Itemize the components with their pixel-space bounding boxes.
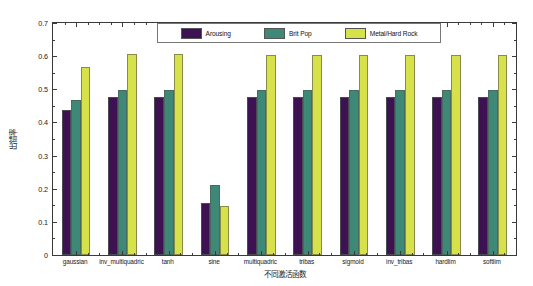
x-axis-minor-tick [366,253,367,255]
x-axis-minor-tick [470,23,471,25]
legend-swatch [181,28,202,39]
y-axis-minor-tick [53,172,55,173]
x-axis-minor-tick [157,253,158,255]
x-axis-minor-tick [250,253,251,255]
y-axis-minor-tick [514,205,516,206]
bar [395,90,405,255]
bar [386,97,396,255]
x-axis-minor-tick [377,253,378,255]
y-axis-minor-tick [53,139,55,140]
legend-entry: Arousing [181,28,231,39]
y-axis-minor-tick [514,172,516,173]
plot-area [52,22,517,256]
x-axis-minor-tick [76,23,77,25]
legend-swatch [264,28,285,39]
y-axis-tick-label: 0.3 [38,151,48,160]
y-axis-tick-label: 0.4 [38,118,48,127]
x-axis-minor-tick [400,253,401,255]
x-axis-minor-tick [111,253,112,255]
y-axis-minor-tick [53,40,55,41]
y-axis-tick-label: 0 [44,251,48,260]
legend-label: Arousing [206,30,231,37]
y-axis-tick-label: 0.5 [38,85,48,94]
x-axis-minor-tick [285,253,286,255]
y-axis-tick-mark [512,23,516,24]
x-axis-minor-tick [319,253,320,255]
y-axis-tick-mark [512,189,516,190]
bar [81,67,91,255]
bar [247,97,257,255]
x-axis-minor-tick [458,23,459,25]
chart-legend: ArousingBrit PopMetal/Hard Rock [157,23,441,43]
x-axis-tick-label: sine [208,258,219,265]
y-axis-title: 出错率 [7,109,18,169]
x-axis-minor-tick [273,253,274,255]
legend-swatch [345,28,366,39]
y-axis-tick-label: 0.1 [38,217,48,226]
bar [164,90,174,255]
legend-label: Metal/Hard Rock [370,30,418,37]
y-axis-tick-labels: 00.10.20.30.40.50.60.7 [18,22,48,256]
y-axis-tick-mark [53,156,57,157]
bar [71,100,81,255]
x-axis-minor-tick [435,253,436,255]
x-axis-tick-label: tanh [162,258,174,265]
x-axis-minor-tick [261,253,262,255]
x-axis-tick-label: gaussian [63,258,88,265]
bar [442,90,452,255]
bar [220,206,230,255]
x-axis-minor-tick [122,253,123,255]
bar [432,97,442,255]
y-axis-minor-tick [514,238,516,239]
x-axis-minor-tick [88,23,89,25]
x-axis-minor-tick [504,23,505,25]
x-axis-minor-tick [88,253,89,255]
x-axis-minor-tick [192,253,193,255]
x-axis-minor-tick [493,23,494,25]
y-axis-minor-tick [53,106,55,107]
y-axis-tick-mark [512,89,516,90]
y-axis-tick-mark [53,122,57,123]
x-axis-minor-tick [481,253,482,255]
x-axis-minor-tick [458,253,459,255]
bar [405,55,415,256]
x-axis-tick-label: inv_multiquadric [99,258,144,265]
x-axis-minor-tick [470,253,471,255]
x-axis-minor-tick [122,23,123,25]
bar [127,54,137,256]
y-axis-minor-tick [514,73,516,74]
y-axis-tick-mark [512,222,516,223]
bar [488,90,498,255]
legend-entry: Brit Pop [264,28,312,39]
x-axis-minor-tick [169,253,170,255]
x-axis-tick-label: tribas [299,258,314,265]
x-axis-minor-tick [134,253,135,255]
bar [293,97,303,255]
x-axis-tick-label: inv_tribas [386,258,412,265]
bar [303,90,313,255]
y-axis-minor-tick [53,238,55,239]
x-axis-minor-tick [389,253,390,255]
y-axis-tick-mark [512,122,516,123]
legend-label: Brit Pop [289,30,312,37]
chart-figure: 00.10.20.30.40.50.60.7 出错率 gaussianinv_m… [0,0,533,286]
bar [451,55,461,255]
x-axis-minor-tick [238,253,239,255]
x-axis-minor-tick [493,253,494,255]
bar [201,203,211,255]
x-axis-minor-tick [99,23,100,25]
x-axis-minor-tick [227,253,228,255]
y-axis-tick-label: 0.6 [38,52,48,61]
x-axis-minor-tick [111,23,112,25]
y-axis-tick-mark [53,189,57,190]
bar [210,185,220,255]
x-axis-minor-tick [504,253,505,255]
y-axis-tick-mark [512,156,516,157]
bar [478,97,488,255]
y-axis-minor-tick [514,139,516,140]
x-axis-minor-tick [146,253,147,255]
x-axis-minor-tick [180,253,181,255]
bar [154,97,164,255]
bar [312,55,322,256]
y-axis-minor-tick [514,40,516,41]
